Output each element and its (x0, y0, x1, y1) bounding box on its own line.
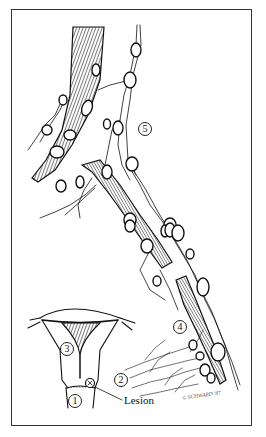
region-label-2: 2 (114, 373, 128, 387)
lesion-label: Lesion (124, 394, 154, 406)
lesion-leader-line (95, 387, 122, 400)
region-label-1: 1 (68, 394, 82, 408)
region-label-3: 3 (60, 342, 74, 356)
uterus (28, 309, 135, 408)
common-iliac-vessel (32, 27, 104, 182)
lymphatic-illustration (0, 0, 266, 437)
region-label-5: 5 (138, 122, 152, 136)
region-label-4: 4 (173, 320, 187, 334)
